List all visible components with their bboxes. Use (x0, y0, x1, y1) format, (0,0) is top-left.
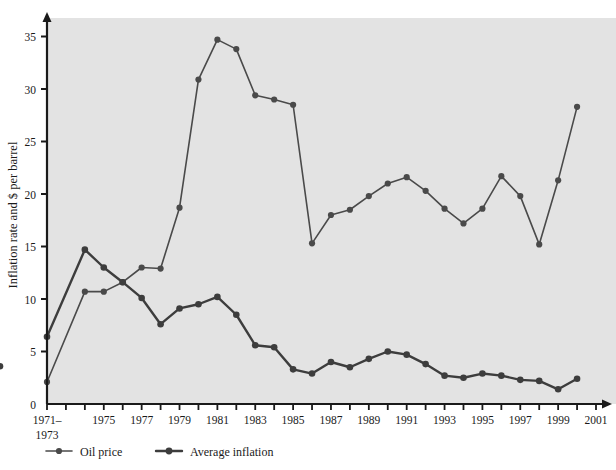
data-point (101, 289, 107, 295)
data-point (404, 174, 410, 180)
data-point (328, 212, 334, 218)
x-tick-label: 1981 (206, 414, 229, 426)
x-tick-label: 1983 (244, 414, 267, 426)
data-point (517, 377, 524, 384)
data-point (100, 264, 107, 271)
data-point (384, 348, 391, 355)
x-tick-label: 1989 (357, 414, 380, 426)
legend-item-average-inflation: Average inflation (156, 445, 273, 459)
data-point (214, 294, 221, 301)
x-axis-ticks: 1971–19731975197719791981198319851987198… (33, 404, 608, 441)
chart-legend: Oil priceAverage inflation (46, 445, 273, 459)
data-point (403, 351, 410, 358)
data-point (233, 46, 239, 52)
x-tick-label: 1987 (319, 414, 342, 426)
legend-swatch-marker (166, 448, 173, 455)
data-point (498, 173, 504, 179)
data-point (252, 92, 258, 98)
data-point (366, 356, 373, 363)
data-point (214, 37, 220, 43)
x-tick-label: 1999 (547, 414, 570, 426)
y-axis-title-text: Inflation rate and $ per barrel (6, 141, 20, 288)
y-tick-label: 15 (25, 241, 37, 253)
legend-item-oil-price: Oil price (46, 445, 122, 459)
data-point (328, 359, 335, 366)
data-point (271, 96, 277, 102)
data-point (498, 372, 505, 379)
data-point (138, 295, 145, 302)
chart-figure: 05101520253035 1971–19731975197719791981… (0, 0, 616, 470)
data-point (176, 205, 182, 211)
data-point (574, 104, 580, 110)
y-tick-label: 20 (25, 189, 37, 201)
data-point (309, 370, 316, 377)
data-point (422, 361, 429, 368)
data-point (441, 372, 448, 379)
data-point (233, 311, 240, 318)
y-tick-label: 30 (25, 84, 37, 96)
data-point (574, 376, 581, 383)
x-tick-label: 1997 (509, 414, 532, 426)
data-point (366, 193, 372, 199)
data-point (536, 241, 542, 247)
data-point (441, 206, 447, 212)
data-point (157, 321, 164, 328)
data-point (347, 207, 353, 213)
y-tick-label: 0 (30, 399, 36, 411)
data-point (82, 289, 88, 295)
legend-label: Oil price (80, 445, 122, 459)
x-tick-label: 1993 (433, 414, 456, 426)
data-point (423, 188, 429, 194)
y-axis-title: Inflation rate and $ per barrel (6, 141, 20, 288)
y-tick-label: 35 (25, 31, 37, 43)
data-point (555, 177, 561, 183)
x-tick-label: 1979 (168, 414, 191, 426)
data-point (195, 76, 201, 82)
data-point (460, 220, 466, 226)
x-tick-label: 1971– (33, 414, 62, 426)
x-tick-label: 1977 (130, 414, 153, 426)
data-point (252, 342, 259, 349)
data-point (82, 246, 89, 253)
data-point (536, 378, 543, 385)
y-tick-label: 10 (25, 294, 37, 306)
legend-label: Average inflation (190, 445, 273, 459)
data-point (517, 193, 523, 199)
y-axis-ticks: 05101520253035 (25, 31, 48, 411)
data-point (0, 363, 3, 370)
data-point (271, 344, 278, 351)
data-point (139, 264, 145, 270)
x-tick-label: 2001 (585, 414, 608, 426)
data-point (385, 180, 391, 186)
data-point (290, 102, 296, 108)
data-point (460, 374, 467, 381)
y-tick-label: 5 (30, 346, 36, 358)
data-point (176, 305, 183, 312)
x-tick-label: 1973 (36, 429, 59, 441)
data-point (195, 301, 202, 308)
data-point (479, 206, 485, 212)
data-point (157, 265, 163, 271)
data-point (479, 370, 486, 377)
data-point (119, 279, 126, 286)
x-tick-label: 1975 (92, 414, 115, 426)
x-tick-label: 1985 (282, 414, 305, 426)
plot-background (47, 18, 616, 404)
data-point (290, 366, 297, 373)
oil-price-inflation-line-chart: 05101520253035 1971–19731975197719791981… (0, 0, 616, 470)
legend-swatch-marker (56, 448, 62, 454)
data-point (555, 386, 562, 393)
data-point (309, 240, 315, 246)
data-point (347, 364, 354, 371)
y-tick-label: 25 (25, 136, 37, 148)
x-tick-label: 1991 (395, 414, 418, 426)
x-tick-label: 1995 (471, 414, 494, 426)
